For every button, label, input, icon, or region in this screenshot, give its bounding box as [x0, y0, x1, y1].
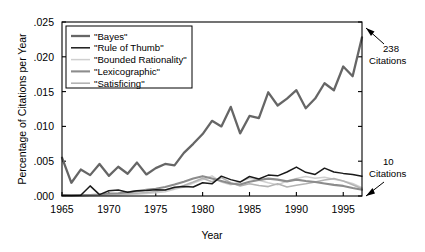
x-axis-title: Year [201, 229, 223, 241]
annotation-10-unit: Citations [369, 168, 407, 179]
y-tick-label-5: .025 [34, 16, 55, 28]
x-tick-label-4: 1985 [238, 203, 262, 215]
x-tick-label-2: 1975 [144, 203, 168, 215]
y-tick-label-1: .005 [34, 155, 55, 167]
annotation-238-unit: Citations [369, 55, 407, 66]
y-tick-label-3: .015 [34, 86, 55, 98]
x-tick-label-5: 1990 [285, 203, 309, 215]
x-tick-label-6: 1995 [332, 203, 356, 215]
legend-label-3: "Lexicographic" [94, 66, 160, 77]
y-axis-title: Percentage of Citations per Year [16, 33, 28, 185]
legend-label-1: "Rule of Thumb" [94, 42, 164, 53]
y-tick-label-0: .000 [34, 190, 55, 202]
x-tick-label-3: 1980 [191, 203, 215, 215]
y-tick-label-4: .020 [34, 51, 55, 63]
x-tick-label-0: 1965 [50, 203, 74, 215]
legend-label-4: "Satisficing" [94, 78, 145, 89]
legend-label-2: "Bounded Rationality" [94, 54, 187, 65]
chart-legend: "Bayes""Rule of Thumb""Bounded Rationali… [66, 26, 192, 89]
legend-label-0: "Bayes" [94, 31, 127, 42]
annotation-238-value: 238 [383, 43, 399, 54]
line-chart: Percentage of Citations per Year Year .0… [0, 0, 425, 252]
x-tick-label-1: 1970 [97, 203, 121, 215]
y-tick-label-2: .010 [34, 120, 55, 132]
citation-trends-figure: Percentage of Citations per Year Year .0… [0, 0, 425, 252]
annotation-10-value: 10 [383, 156, 394, 167]
